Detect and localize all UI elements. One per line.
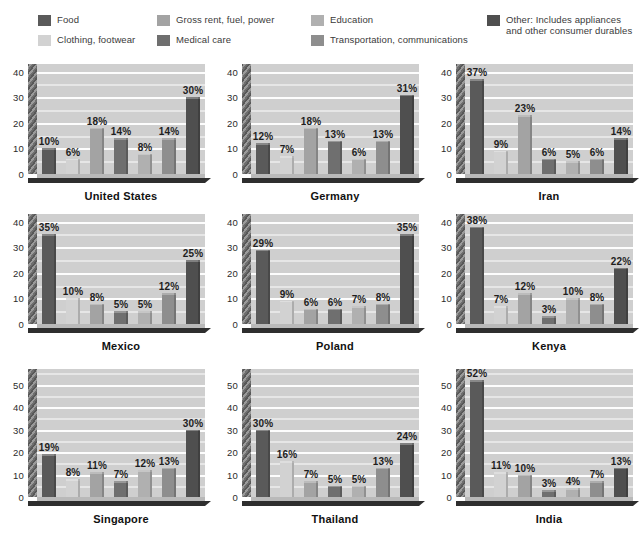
y-axis-tick-label: 10 [441,143,452,154]
bar [304,481,319,497]
bar-side-shade [174,138,176,174]
bar-side-shade [198,430,200,497]
gridline [37,373,205,375]
bar-side-shade [292,461,294,497]
gridline [251,273,419,275]
gridline [251,407,419,409]
bar-value-label: 6% [328,297,343,308]
axis-wall-3d [242,214,251,324]
gridline [251,247,419,249]
y-axis-tick-label: 0 [447,169,452,180]
bar-side-shade [198,260,200,324]
bar [186,260,201,324]
y-axis: 01020304050 [214,357,242,529]
bar-side-shade [364,486,366,497]
bar-value-label: 6% [304,297,319,308]
floor-edge-3d [242,501,419,506]
bar-value-label: 23% [515,103,535,114]
chart-panel: 0102030405019%8%11%7%12%13%30%Singapore [0,357,214,529]
y-axis: 010203040 [0,52,28,202]
bar-value-label: 24% [397,431,417,442]
chart-panel: 0102030405030%16%7%5%5%13%24%Thailand [214,357,428,529]
bar-side-shade [268,250,270,324]
bar [280,301,295,324]
floor-edge-3d [28,178,205,183]
bar-value-label: 37% [467,67,487,78]
bar-value-label: 5% [114,299,129,310]
bar-side-shade [102,472,104,497]
bar [470,380,485,497]
y-axis-tick-label: 20 [13,267,24,278]
y-axis-tick-label: 30 [441,92,452,103]
y-axis-tick-label: 40 [227,402,238,413]
panel-title: Iran [456,190,642,202]
y-axis-tick-label: 10 [227,293,238,304]
y-axis-tick-label: 0 [19,319,24,330]
bar [542,490,557,497]
gridline [37,72,205,74]
gridline [37,110,205,112]
y-axis-tick-label: 40 [441,402,452,413]
bar-value-label: 14% [111,126,131,137]
y-axis-tick-label: 10 [441,469,452,480]
y-axis: 01020304050 [428,357,456,529]
bar-side-shade [54,234,56,324]
axis-wall-3d [456,214,465,324]
legend-item-label: Medical care [176,34,231,45]
floor-edge-3d [28,501,205,506]
bar [542,316,557,324]
gridline [465,72,633,74]
bar [566,161,581,174]
bar [90,304,105,324]
floor-edge-3d [456,178,633,183]
legend-swatch-transportation [311,35,324,46]
bar-value-label: 52% [467,368,487,379]
gridline [465,396,633,398]
y-axis-tick-label: 40 [441,66,452,77]
legend-swatch-medical-care [157,35,170,46]
y-axis-tick-label: 50 [227,379,238,390]
chart-panel-inner: 0102030405030%16%7%5%5%13%24%Thailand [214,357,428,529]
bar-side-shade [316,309,318,324]
gridline [465,452,633,454]
bar-value-label: 5% [138,299,153,310]
chart-panel: 01020304035%10%8%5%5%12%25%Mexico [0,202,214,357]
bar [256,143,271,174]
bar-side-shade [506,472,508,497]
gridline [37,430,205,432]
y-axis-tick-label: 30 [13,242,24,253]
bar [376,141,391,174]
y-axis-tick-label: 50 [13,379,24,390]
gridline [251,418,419,420]
bar [328,309,343,324]
bar [42,454,57,497]
bar-side-shade [530,293,532,324]
gridline [251,97,419,99]
y-axis-tick-label: 20 [227,267,238,278]
gridline [37,234,205,236]
bar-side-shade [340,141,342,174]
legend-item-label: Education [330,14,373,25]
bar-value-label: 10% [515,463,535,474]
bar [186,430,201,497]
bar-value-label: 11% [491,460,511,471]
bar [138,470,153,497]
legend-item-label: Food [57,14,79,25]
bar-value-label: 6% [66,147,81,158]
gridline [465,286,633,288]
gridline [37,441,205,443]
bar [518,115,533,174]
axis-wall-3d [456,64,465,174]
bar [304,128,319,174]
bar-side-shade [626,268,628,324]
y-axis-tick-label: 40 [13,402,24,413]
bar-value-label: 30% [183,85,203,96]
bar-side-shade [364,306,366,324]
bar [518,475,533,497]
y-axis-tick-label: 10 [441,293,452,304]
bar-side-shade [482,380,484,497]
bar [352,486,367,497]
bar-value-label: 7% [352,294,367,305]
y-axis-tick-label: 30 [441,242,452,253]
bar-value-label: 14% [159,126,179,137]
